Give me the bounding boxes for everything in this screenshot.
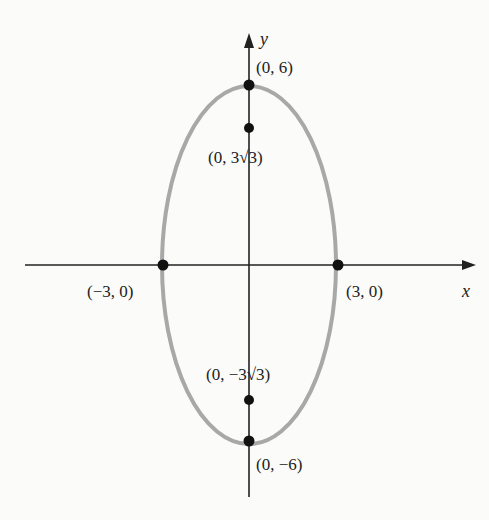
y-axis-arrow-icon [244,33,254,48]
point-bottom-vertex [244,436,255,447]
ellipse-diagram: y x (0, 6) (0, 3√3) (−3, 0) (3, 0) (0, −… [0,0,489,520]
x-axis [25,260,476,270]
x-axis-label: x [461,281,470,301]
x-axis-arrow-icon [462,260,476,270]
label-upper-focus: (0, 3√3) [208,148,263,167]
label-bottom-vertex: (0, −6) [256,455,302,474]
label-left-vertex: (−3, 0) [87,282,133,301]
y-axis-label: y [258,29,268,49]
label-lower-focus: (0, −3√3) [206,365,270,384]
point-lower-focus [244,395,254,405]
point-right-vertex [333,260,344,271]
label-right-vertex: (3, 0) [346,282,383,301]
point-upper-focus [244,123,254,133]
label-top-vertex: (0, 6) [256,58,293,77]
point-left-vertex [158,260,169,271]
point-top-vertex [244,80,255,91]
